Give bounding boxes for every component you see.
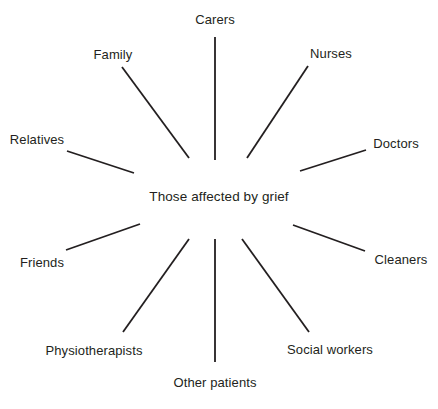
spoke-line-social-workers [242,239,309,332]
node-label-other-patients: Other patients [173,375,256,390]
spoke-line-relatives [67,151,134,173]
spoke-line-physiotherapists [123,239,189,332]
spoke-line-nurses [247,66,308,158]
node-label-physiotherapists: Physiotherapists [46,343,143,358]
node-label-nurses: Nurses [310,46,352,61]
node-label-family: Family [94,47,133,62]
node-label-cleaners: Cleaners [375,252,428,267]
spoke-line-family [122,67,189,158]
center-node-label: Those affected by grief [149,189,288,205]
spoke-line-cleaners [293,225,365,251]
node-label-social-workers: Social workers [287,342,373,357]
node-label-carers: Carers [195,12,235,27]
node-label-relatives: Relatives [10,132,64,147]
node-label-doctors: Doctors [373,136,419,151]
spoke-line-doctors [300,150,366,171]
spoke-line-friends [66,224,140,250]
node-label-friends: Friends [20,255,64,270]
grief-radial-diagram: CarersNursesDoctorsCleanersSocial worker… [0,0,438,409]
